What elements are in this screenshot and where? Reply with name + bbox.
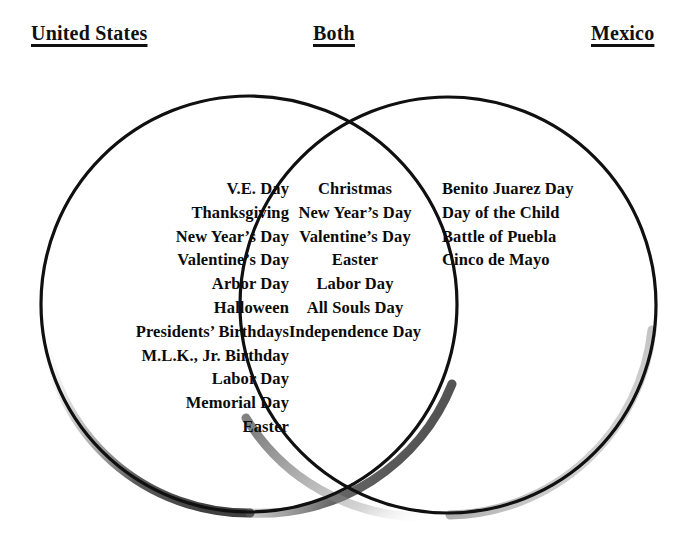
intersection-item-list: Christmas New Year’s Day Valentine’s Day… [275,177,435,344]
list-item: Day of the Child [442,201,672,225]
list-item: Thanksgiving [0,201,289,225]
list-item: New Year’s Day [275,201,435,225]
list-item: All Souls Day [275,296,435,320]
list-item: Valentine’s Day [275,225,435,249]
list-item: Cinco de Mayo [442,248,672,272]
list-item: M.L.K., Jr. Birthday [0,344,289,368]
header-left-set: United States [31,22,148,44]
list-item: Memorial Day [0,391,289,415]
header-intersection: Both [313,22,355,44]
list-item: V.E. Day [0,177,289,201]
list-item: Labor Day [275,272,435,296]
venn-diagram-page: United States Both Mexico V.E. Day Thank… [0,0,700,552]
left-only-item-list: V.E. Day Thanksgiving New Year’s Day Val… [0,177,289,439]
list-item: Presidents’ Birthdays [0,320,289,344]
list-item: Valentine’s Day [0,248,289,272]
list-item: Benito Juarez Day [442,177,672,201]
list-item: Easter [0,415,289,439]
list-item: Halloween [0,296,289,320]
list-item: Labor Day [0,367,289,391]
list-item: Easter [275,248,435,272]
list-item: Arbor Day [0,272,289,296]
right-only-item-list: Benito Juarez Day Day of the Child Battl… [442,177,672,272]
list-item: Independence Day [275,320,435,344]
list-item: Christmas [275,177,435,201]
header-right-set: Mexico [591,22,654,44]
list-item: New Year’s Day [0,225,289,249]
list-item: Battle of Puebla [442,225,672,249]
